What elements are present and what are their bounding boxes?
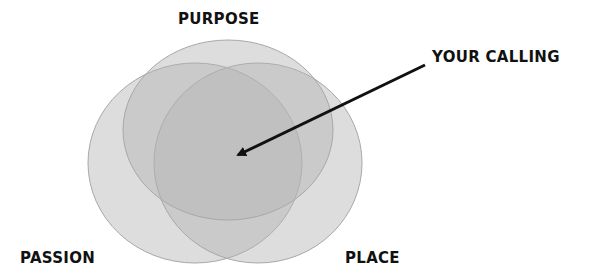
- purpose-circle: [123, 40, 333, 220]
- place-label: PLACE: [345, 249, 400, 267]
- your-calling-label: YOUR CALLING: [432, 48, 560, 66]
- passion-label: PASSION: [20, 249, 95, 267]
- venn-canvas: [0, 0, 606, 279]
- purpose-label: PURPOSE: [178, 10, 260, 28]
- venn-diagram: PURPOSE YOUR CALLING PASSION PLACE: [0, 0, 606, 279]
